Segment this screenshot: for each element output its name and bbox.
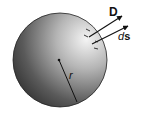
- flux-density-label: D: [109, 5, 118, 19]
- surface-element-suffix: s: [124, 30, 130, 42]
- surface-element-label: ds: [118, 30, 130, 42]
- gauss-sphere-diagram: r D ds: [0, 0, 141, 119]
